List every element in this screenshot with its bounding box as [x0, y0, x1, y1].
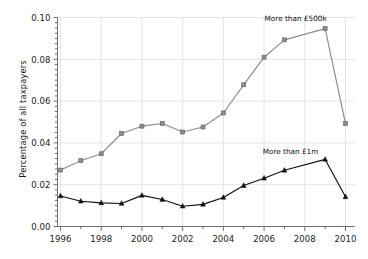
y-tick-label: 0.10 [31, 13, 50, 23]
series-line [61, 159, 346, 206]
x-tick-label: 1998 [90, 234, 112, 244]
data-point-marker [323, 27, 327, 31]
series-annotation-label: More than £500k [265, 14, 328, 23]
data-point-marker [140, 193, 145, 198]
data-point-marker [160, 121, 164, 125]
data-point-marker [181, 130, 185, 134]
data-point-marker [344, 122, 348, 126]
y-tick-label: 0.06 [31, 96, 50, 106]
axis-lines [58, 18, 355, 227]
x-tick-label: 2002 [172, 234, 194, 244]
chart-container: Percentage of all taxpayers 0.000.020.04… [0, 0, 368, 259]
data-point-marker [59, 168, 63, 172]
x-axis-tick-labels: 19961998200020022004200620082010 [50, 234, 357, 244]
y-tick-label: 0.02 [31, 180, 50, 190]
x-tick-label: 1996 [50, 234, 72, 244]
data-point-marker [282, 38, 286, 42]
data-point-marker [201, 125, 205, 129]
data-point-marker [221, 111, 225, 115]
data-point-marker [262, 55, 266, 59]
data-point-marker [140, 124, 144, 128]
data-point-marker [58, 193, 63, 198]
x-tick-label: 2008 [294, 234, 316, 244]
x-tick-label: 2010 [335, 234, 357, 244]
line-chart-plot: 0.000.020.040.060.080.10 199619982000200… [0, 0, 368, 259]
data-point-marker [242, 83, 246, 87]
data-point-marker [99, 152, 103, 156]
series-annotation-label: More than £1m [263, 147, 319, 156]
x-tick-label: 2004 [212, 234, 234, 244]
y-tick-label: 0.08 [31, 55, 50, 65]
y-tick-label: 0.00 [31, 222, 50, 232]
x-tick-label: 2000 [131, 234, 153, 244]
x-tick-label: 2006 [253, 234, 275, 244]
data-point-marker [120, 131, 124, 135]
y-tick-label: 0.04 [31, 138, 50, 148]
y-axis-ticks [54, 18, 58, 227]
data-point-marker [79, 159, 83, 163]
gridlines [58, 18, 355, 227]
series-annotations: More than £500kMore than £1m [263, 14, 328, 157]
data-point-marker [323, 157, 328, 162]
y-axis-tick-labels: 0.000.020.040.060.080.10 [31, 13, 50, 232]
x-axis-ticks [61, 227, 346, 232]
